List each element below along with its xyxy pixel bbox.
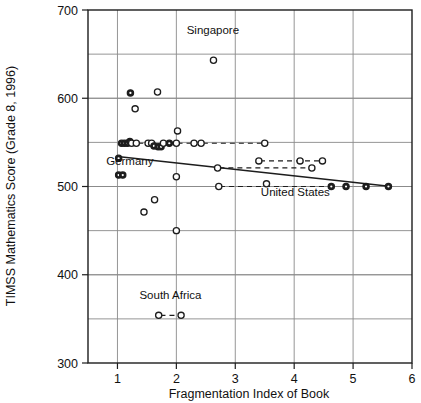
annotation-label: Germany [106,155,154,167]
data-point [173,228,179,234]
data-point [198,140,204,146]
y-tick-label: 500 [57,180,78,194]
data-point [154,89,160,95]
data-point [156,312,162,318]
data-point-core [365,185,367,187]
data-point-core [330,185,332,187]
y-axis-title: TIMSS Mathematics Score (Grade 8, 1996) [4,66,18,306]
x-tick-label: 1 [114,372,121,386]
data-point [174,128,180,134]
data-point [309,165,315,171]
data-point [297,158,303,164]
data-point [132,106,138,112]
data-point [133,140,139,146]
data-point-core [345,185,347,187]
data-point [173,174,179,180]
x-tick-label: 6 [409,372,416,386]
data-point [191,140,197,146]
data-point [210,57,216,63]
x-tick-label: 2 [173,372,180,386]
y-tick-label: 600 [57,92,78,106]
y-tick-label: 400 [57,268,78,282]
y-tick-label: 700 [57,4,78,18]
data-point [173,140,179,146]
data-point-core [168,142,170,144]
data-point [216,183,222,189]
x-tick-label: 5 [350,372,357,386]
annotation-label: South Africa [139,289,202,301]
x-tick-label: 3 [232,372,239,386]
data-point [215,165,221,171]
y-tick-label: 300 [57,357,78,371]
scatter-plot-figure: 300400500600700 123456 SingaporeGermanyU… [0,0,421,403]
plot-canvas: 300400500600700 123456 SingaporeGermanyU… [0,0,421,403]
data-point-core [122,174,124,176]
data-point [319,158,325,164]
data-point [141,209,147,215]
data-point [256,158,262,164]
data-point-core [387,185,389,187]
data-point [178,312,184,318]
x-axis-title: Fragmentation Index of Book [169,387,330,401]
data-point [151,197,157,203]
annotation-label: Singapore [187,24,239,36]
data-point [262,140,268,146]
annotation-label: United States [261,186,330,198]
data-point-core [129,92,131,94]
x-tick-label: 4 [291,372,298,386]
